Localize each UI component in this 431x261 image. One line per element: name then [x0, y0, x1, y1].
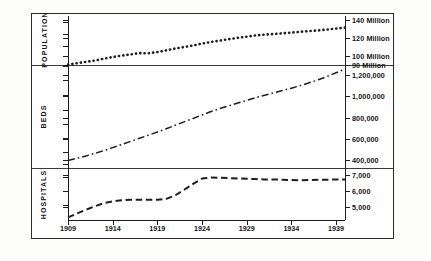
y-axis-label: 1,000,000 — [352, 92, 385, 101]
y-tick-right — [345, 38, 350, 39]
y-tick-right — [345, 118, 350, 119]
series-hospitals — [68, 178, 345, 218]
x-axis-label: 1939 — [328, 224, 344, 233]
y-axis-label: 1,200,000 — [352, 70, 385, 79]
x-axis-label: 1914 — [105, 224, 121, 233]
panel-label-hospitals: HOSPITALS — [33, 168, 55, 220]
y-tick-right — [345, 96, 350, 97]
plot-area — [68, 16, 345, 220]
y-axis-label: 7,000 — [352, 170, 371, 179]
panel-label-hospitals-text: HOSPITALS — [41, 169, 48, 218]
series-beds — [68, 69, 345, 160]
y-tick-right — [345, 75, 350, 76]
y-axis-label: 140 Million — [352, 16, 390, 25]
y-tick-right — [345, 65, 350, 66]
y-axis-label: 100 Million — [352, 52, 390, 61]
y-tick-right — [345, 207, 350, 208]
series-population — [68, 28, 345, 65]
x-axis-label: 1909 — [60, 224, 76, 233]
panel-label-population: POPULATION — [33, 14, 55, 65]
panel-label-population-text: POPULATION — [41, 11, 48, 67]
y-axis-label: 120 Million — [352, 34, 390, 43]
y-axis-label: 5,000 — [352, 203, 371, 212]
y-axis-label: 800,000 — [352, 113, 379, 122]
panel-label-beds: BEDS — [33, 65, 55, 168]
y-axis-label: 90 Million — [352, 61, 386, 70]
chart-figure: POPULATION BEDS HOSPITALS 140 Million120… — [0, 0, 431, 261]
y-tick-right — [345, 160, 350, 161]
y-tick-right — [345, 175, 350, 176]
x-axis-label: 1919 — [149, 224, 165, 233]
panel-label-beds-text: BEDS — [41, 105, 48, 129]
y-axis-label: 400,000 — [352, 156, 379, 165]
y-tick-right — [345, 191, 350, 192]
y-tick-right — [345, 139, 350, 140]
x-axis-label: 1924 — [194, 224, 210, 233]
series-lines — [68, 16, 345, 220]
y-tick-right — [345, 56, 350, 57]
x-axis-label: 1934 — [283, 224, 299, 233]
x-axis-label: 1929 — [239, 224, 255, 233]
y-axis-label: 6,000 — [352, 186, 371, 195]
y-tick-right — [345, 20, 350, 21]
x-axis — [68, 220, 345, 221]
y-axis-label: 600,000 — [352, 135, 379, 144]
